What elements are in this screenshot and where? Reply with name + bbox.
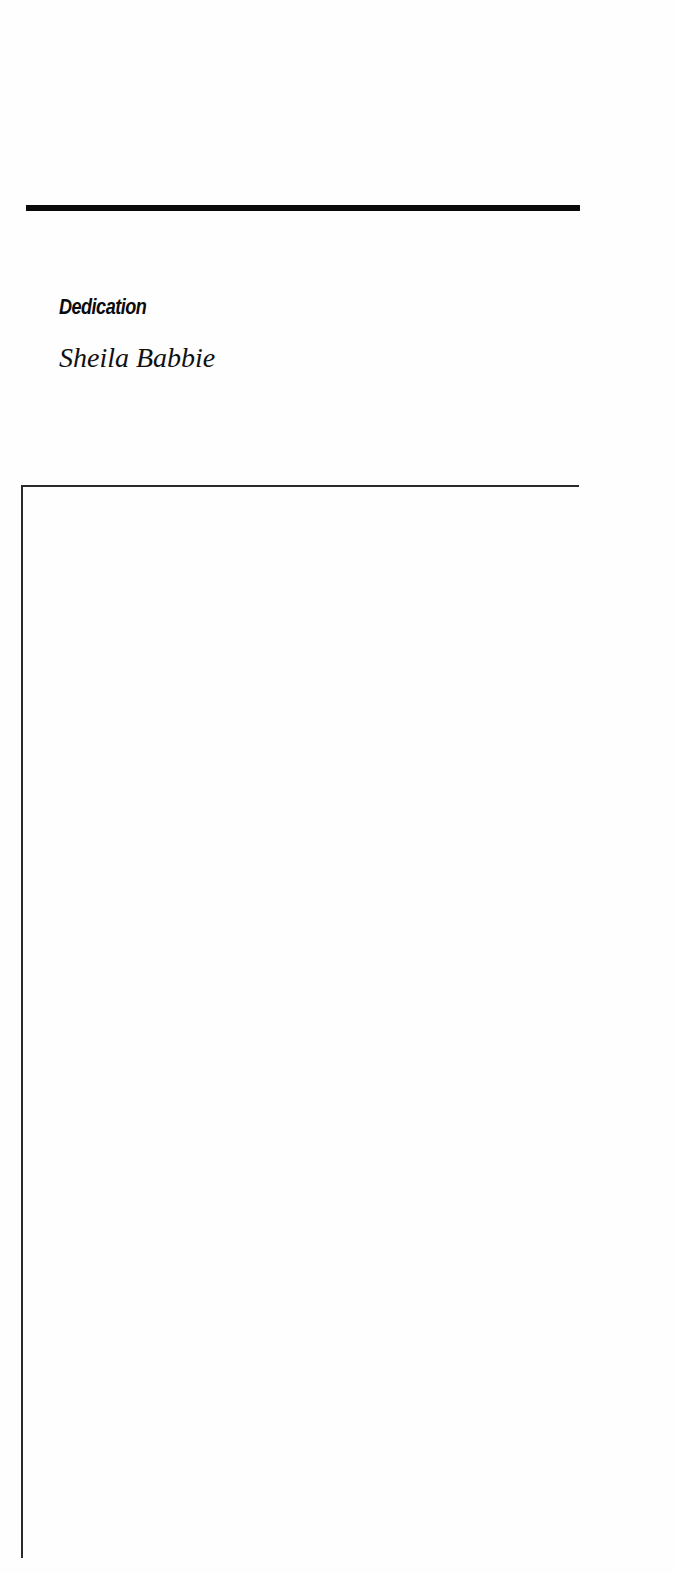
frame-top-rule <box>21 485 579 487</box>
top-rule-divider <box>26 205 580 211</box>
book-page: Dedication Sheila Babbie <box>0 0 675 1573</box>
dedication-heading: Dedication <box>59 292 146 322</box>
frame-left-rule <box>21 485 23 1558</box>
dedicatee-name: Sheila Babbie <box>59 340 215 376</box>
